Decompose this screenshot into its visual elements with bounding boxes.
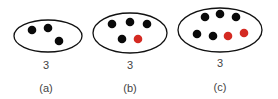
panel-caption: (c)	[214, 82, 227, 93]
black-dot	[55, 37, 64, 46]
black-dot	[201, 13, 210, 22]
black-dot	[193, 30, 202, 39]
panel-a	[14, 20, 82, 52]
panel-b	[93, 13, 167, 53]
black-dot	[143, 20, 152, 29]
red-dot	[240, 29, 249, 38]
panel-c	[178, 8, 262, 52]
red-dot	[134, 35, 143, 44]
black-dot	[126, 18, 135, 27]
black-dot	[44, 24, 53, 33]
count-label: 3	[43, 60, 49, 71]
black-dot	[118, 35, 127, 44]
black-dot	[216, 10, 225, 19]
panel-caption: (b)	[123, 83, 136, 94]
panel-caption: (a)	[39, 83, 52, 94]
black-dot	[209, 32, 218, 41]
black-dot	[108, 20, 117, 29]
count-label: 3	[217, 58, 223, 69]
count-label: 3	[127, 60, 133, 71]
black-dot	[232, 13, 241, 22]
red-dot	[224, 32, 233, 41]
black-dot	[28, 26, 37, 35]
